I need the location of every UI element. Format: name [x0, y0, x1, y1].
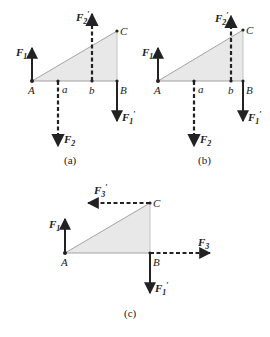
point-big-b-dot [241, 79, 244, 82]
label-b: b [89, 84, 95, 96]
label-a: a [198, 83, 204, 95]
caption-a: (a) [64, 154, 77, 167]
label-B: B [153, 256, 160, 268]
caption-b: (b) [198, 154, 211, 167]
label-f2-prime: F2′ [75, 10, 90, 26]
label-C: C [153, 197, 161, 209]
point-b-dot [229, 79, 232, 82]
point-big-b-dot [148, 251, 151, 254]
label-f1: F1 [141, 46, 153, 61]
label-f1-prime: F1′ [154, 281, 169, 297]
label-f3-prime: F3′ [93, 183, 108, 199]
force-diagrams: A a b B C F1 F2′ F2 F1′ (a) A a b B C F1… [0, 0, 270, 337]
label-b: b [228, 84, 234, 96]
label-A: A [60, 256, 68, 268]
label-C: C [246, 24, 254, 36]
label-a: a [62, 83, 68, 95]
point-b-dot [90, 79, 93, 82]
point-a-dot [30, 79, 34, 83]
point-small-a-dot [56, 79, 59, 82]
point-small-a-dot [192, 79, 195, 82]
point-a-dot [156, 79, 160, 83]
label-f1-prime: F1′ [247, 110, 262, 126]
label-f1-prime: F1′ [121, 110, 136, 126]
point-big-b-dot [115, 79, 118, 82]
caption-c: (c) [124, 307, 137, 320]
label-f2: F2 [199, 133, 211, 148]
point-a-dot [63, 251, 67, 255]
label-B: B [246, 84, 253, 96]
panel-c: A B C F1 F3′ F3 F1′ (c) [48, 183, 210, 320]
panel-a: A a b B C F1 F2′ F2 F1′ (a) [15, 10, 136, 167]
label-A: A [153, 84, 161, 96]
label-f3: F3 [197, 236, 209, 251]
label-f1: F1 [48, 218, 60, 233]
label-f2: F2 [63, 133, 75, 148]
point-c-dot [241, 28, 244, 31]
label-f2-prime: F2′ [214, 11, 229, 27]
panel-b: A a b B C F1 F2′ F2 F1′ (b) [141, 11, 262, 167]
label-B: B [120, 84, 127, 96]
label-A: A [27, 84, 35, 96]
point-c-dot [148, 201, 151, 204]
label-C: C [120, 25, 128, 37]
label-f1: F1 [15, 46, 27, 61]
point-c-dot [115, 29, 118, 32]
